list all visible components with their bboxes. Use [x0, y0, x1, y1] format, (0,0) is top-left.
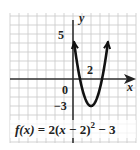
y-tick-label-neg3: −3 [54, 99, 67, 113]
x-axis-label: x [126, 80, 133, 94]
origin-label: 0 [62, 83, 68, 97]
formula-lhs: f(x) [15, 122, 35, 137]
x-tick-label-2: 2 [87, 63, 93, 77]
y-tick-label-5: 5 [58, 28, 64, 42]
function-formula: f(x) = 2(x − 2)2 − 3 [15, 120, 116, 137]
function-graph: 5 y 2 x 0 −3 f(x) = 2(x − 2)2 − 3 [0, 0, 140, 150]
formula-tail: − 3 [95, 122, 116, 137]
y-axis-label: y [77, 11, 85, 25]
formula-eq: = 2( [35, 122, 60, 137]
formula-mid: − 2) [66, 122, 91, 137]
